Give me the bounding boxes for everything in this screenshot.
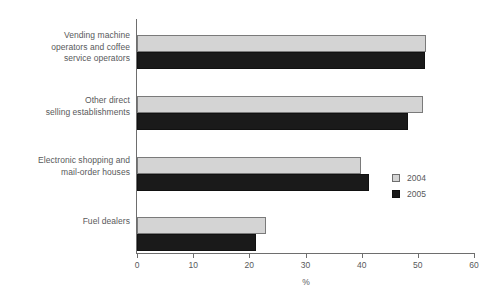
bar-chart: Vending machine operators and coffee ser…: [0, 0, 498, 308]
bar-2005-group-4[interactable]: [137, 234, 256, 251]
bar-2005-group-2[interactable]: [137, 113, 408, 130]
x-axis-tick: [137, 254, 138, 258]
legend: 2004 2005: [392, 170, 426, 202]
x-axis-title: %: [286, 277, 326, 287]
legend-swatch-icon-2005: [392, 190, 400, 198]
legend-label-2004: 2004: [407, 173, 426, 183]
category-label-other-direct-selling: Other direct selling establishments: [0, 95, 130, 118]
bar-2005-group-3[interactable]: [137, 174, 369, 191]
x-axis-tick-label: 60: [454, 260, 494, 270]
category-label-electronic-shopping: Electronic shopping and mail-order house…: [0, 155, 130, 178]
legend-item-2004[interactable]: 2004: [392, 170, 426, 186]
legend-swatch-icon-2004: [392, 174, 400, 182]
x-axis-tick-label: 20: [229, 260, 269, 270]
x-axis-tick: [418, 254, 419, 258]
x-axis-tick-label: 10: [173, 260, 213, 270]
bar-2004-group-4[interactable]: [137, 217, 266, 234]
category-label-line: Electronic shopping and: [0, 155, 130, 167]
category-label-line: service operators: [0, 53, 130, 65]
category-label-vending: Vending machine operators and coffee ser…: [0, 30, 130, 65]
category-label-line: mail-order houses: [0, 167, 130, 179]
legend-label-2005: 2005: [407, 189, 426, 199]
category-label-line: Fuel dealers: [0, 216, 130, 228]
bar-2005-group-1[interactable]: [137, 52, 425, 69]
x-axis-tick: [362, 254, 363, 258]
category-label-fuel-dealers: Fuel dealers: [0, 216, 130, 228]
x-axis-tick: [193, 254, 194, 258]
category-label-line: Vending machine: [0, 30, 130, 42]
category-label-line: Other direct: [0, 95, 130, 107]
category-label-line: operators and coffee: [0, 42, 130, 54]
legend-item-2005[interactable]: 2005: [392, 186, 426, 202]
x-axis-tick: [249, 254, 250, 258]
bar-2004-group-3[interactable]: [137, 157, 361, 174]
bar-2004-group-1[interactable]: [137, 35, 426, 52]
x-axis-tick-label: 40: [342, 260, 382, 270]
x-axis-tick-label: 0: [117, 260, 157, 270]
x-axis-tick-label: 30: [286, 260, 326, 270]
bar-2004-group-2[interactable]: [137, 96, 423, 113]
x-axis-tick-label: 50: [398, 260, 438, 270]
x-axis-tick: [474, 254, 475, 258]
x-axis-tick: [306, 254, 307, 258]
category-label-line: selling establishments: [0, 107, 130, 119]
